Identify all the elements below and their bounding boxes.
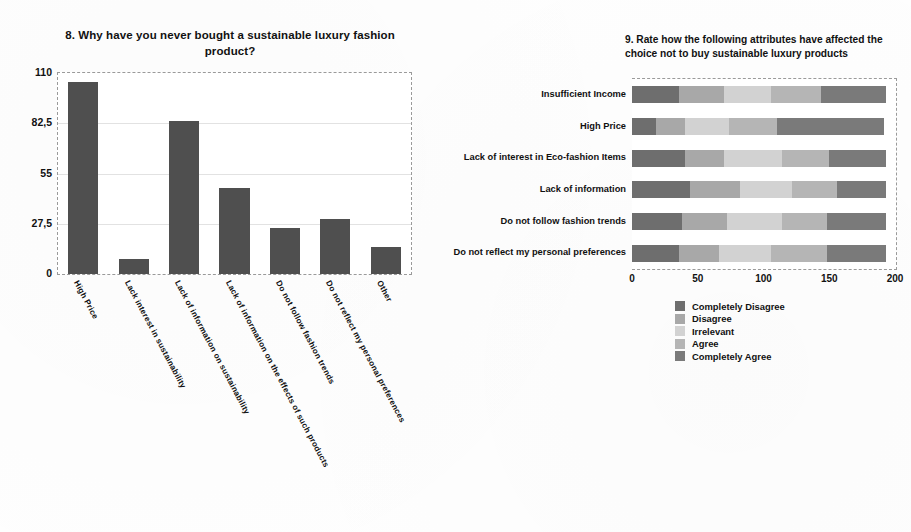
bar [371, 247, 401, 274]
legend-swatch [675, 339, 685, 349]
stacked-bar [632, 245, 886, 262]
bar-segment [724, 150, 782, 167]
plot-area-q8 [57, 72, 412, 275]
stacked-bar [632, 181, 886, 198]
bar-segment [771, 86, 821, 103]
bar-segment [656, 118, 685, 135]
legend-label: Disagree [692, 313, 732, 324]
y-axis-tick-label: 55 [40, 167, 52, 179]
x-axis-tick-label: Do not reflect my personal preferences [324, 279, 407, 424]
bar [169, 121, 199, 274]
legend-label: Agree [692, 338, 719, 349]
stacked-bar [632, 118, 884, 135]
legend-swatch [675, 326, 685, 336]
y-axis-tick-label: 0 [46, 267, 52, 279]
x-axis-tick-label: Do not follow fashion trends [274, 279, 336, 386]
bar-segment [827, 245, 886, 262]
bar-segment [682, 213, 727, 230]
bar-segment [782, 150, 829, 167]
stacked-bar [632, 150, 886, 167]
x-axis-tick-label: 200 [887, 273, 904, 284]
bar [219, 188, 249, 274]
bar-segment [792, 181, 837, 198]
category-label: High Price [580, 121, 626, 131]
stacked-bar [632, 86, 886, 103]
legend-swatch [675, 351, 685, 361]
x-axis-tick-label: 150 [821, 273, 838, 284]
y-axis-tick-label: 27,5 [32, 217, 52, 229]
gridline [58, 174, 411, 175]
stacked-bar [632, 213, 886, 230]
bar-segment [632, 213, 682, 230]
chart-question-8: 8. Why have you never bought a sustainab… [0, 0, 470, 532]
x-axis-tick-label: 50 [692, 273, 703, 284]
chart-question-9: 9. Rate how the following attributes hav… [420, 0, 911, 532]
bar-segment [719, 245, 772, 262]
x-axis-tick-label: Lack of information on the effects of su… [224, 279, 331, 469]
bar-segment [829, 150, 886, 167]
y-axis-tick-label: 110 [35, 66, 52, 78]
x-axis-tick-label: Lack interest in sustainability [123, 279, 188, 390]
bar-segment [821, 86, 885, 103]
chart-title-q9: 9. Rate how the following attributes hav… [625, 33, 895, 62]
bar [68, 82, 98, 274]
bar-segment [632, 150, 685, 167]
legend-item: Disagree [675, 313, 785, 326]
legend-item: Agree [675, 338, 785, 351]
bar-segment [727, 213, 782, 230]
x-axis-tick-label: 100 [755, 273, 772, 284]
bar-segment [782, 213, 827, 230]
plot-area-q9 [632, 78, 897, 270]
y-axis-q8: 027,55582,5110 [6, 64, 52, 284]
bar-segment [632, 181, 690, 198]
bar-segment [740, 181, 793, 198]
bar-segment [679, 86, 724, 103]
legend-item: Completely Agree [675, 350, 785, 363]
category-label: Lack of information [540, 184, 626, 194]
bar-segment [724, 86, 771, 103]
legend-item: Irrelevant [675, 325, 785, 338]
x-axis-tick-label: High Price [72, 279, 100, 321]
bar-segment [685, 118, 730, 135]
legend-swatch [675, 314, 685, 324]
bar [119, 259, 149, 274]
bar-segment [685, 150, 724, 167]
category-label: Do not follow fashion trends [501, 216, 627, 226]
bar-segment [632, 245, 679, 262]
bar-segment [837, 181, 886, 198]
bar-segment [771, 245, 826, 262]
category-label: Do not reflect my personal preferences [453, 247, 626, 257]
legend-q9: Completely DisagreeDisagreeIrrelevantAgr… [675, 300, 785, 363]
bar-segment [679, 245, 718, 262]
bar-segment [632, 118, 656, 135]
legend-swatch [675, 301, 685, 311]
bar-segment [827, 213, 886, 230]
legend-item: Completely Disagree [675, 300, 785, 313]
category-label: Insufficient Income [541, 89, 626, 99]
chart-title-q8: 8. Why have you never bought a sustainab… [55, 28, 405, 59]
y-axis-tick-label: 82,5 [32, 116, 52, 128]
bar [320, 219, 350, 274]
legend-label: Irrelevant [692, 326, 734, 337]
legend-label: Completely Agree [692, 351, 771, 362]
category-label: Lack of interest in Eco-fashion Items [464, 152, 626, 162]
bar [270, 228, 300, 274]
bar-segment [690, 181, 740, 198]
gridline [58, 123, 411, 124]
legend-label: Completely Disagree [692, 301, 785, 312]
bar-segment [777, 118, 885, 135]
bar-segment [632, 86, 679, 103]
x-axis-tick-label: 0 [629, 273, 635, 284]
x-axis-tick-label: Other [375, 279, 394, 303]
bar-segment [729, 118, 776, 135]
